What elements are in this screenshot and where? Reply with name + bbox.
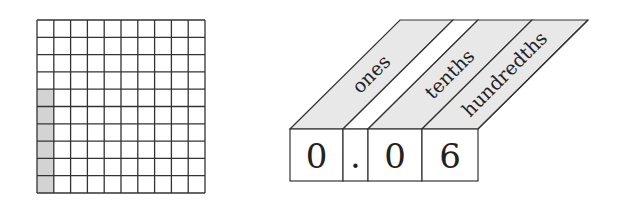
- digit: 6: [439, 136, 461, 176]
- shaded-cell: [37, 124, 54, 141]
- digit: 0: [384, 136, 406, 176]
- digit: .: [350, 136, 361, 176]
- shaded-cell: [37, 176, 54, 193]
- decimal-diagram: ones0.tenths0hundredths6: [0, 0, 622, 205]
- digit: 0: [306, 136, 328, 176]
- place-value-chart: ones0.tenths0hundredths6: [290, 20, 588, 181]
- hundred-grid: [37, 20, 205, 193]
- shaded-cell: [37, 158, 54, 175]
- shaded-cell: [37, 89, 54, 106]
- shaded-cell: [37, 107, 54, 124]
- shaded-cell: [37, 141, 54, 158]
